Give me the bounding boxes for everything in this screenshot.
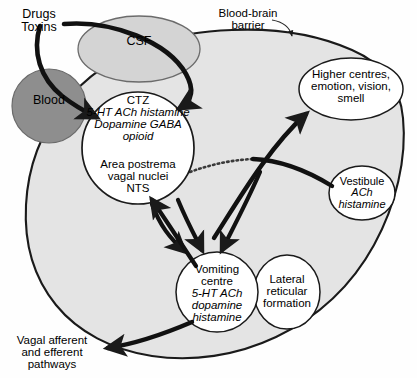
node-vomiting-centre [176, 252, 258, 332]
emesis-pathway-diagram: Drugs Toxins Blood-brain barrier CSF Blo… [0, 0, 417, 378]
node-ctz [82, 92, 194, 204]
node-higher-centres [299, 58, 403, 120]
node-lateral-reticular-formation [254, 255, 320, 329]
diagram-canvas [0, 0, 417, 378]
node-vestibule [329, 166, 395, 220]
